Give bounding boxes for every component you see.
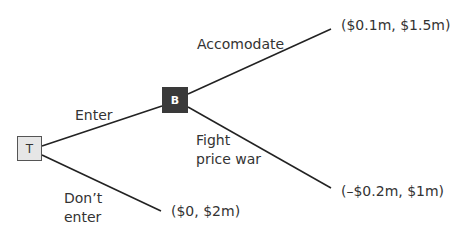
- edge-label-enter: Enter: [75, 106, 113, 125]
- decision-node-t: T: [17, 136, 42, 161]
- node-t-label: T: [26, 142, 33, 156]
- edge-label-dont-enter-line2: enter: [64, 208, 101, 227]
- payoff-accomodate: ($0.1m, $1.5m): [341, 16, 450, 35]
- edge-label-accomodate: Accomodate: [197, 35, 284, 54]
- node-b-label: B: [171, 94, 179, 107]
- payoff-fight: (–$0.2m, $1m): [341, 182, 444, 201]
- edge-label-fight-line2: price war: [196, 150, 261, 169]
- decision-node-b: B: [162, 87, 188, 113]
- payoff-dont-enter: ($0, $2m): [171, 202, 240, 221]
- edge-label-fight-line1: Fight: [196, 131, 230, 150]
- edge-label-dont-enter-line1: Don’t: [64, 189, 102, 208]
